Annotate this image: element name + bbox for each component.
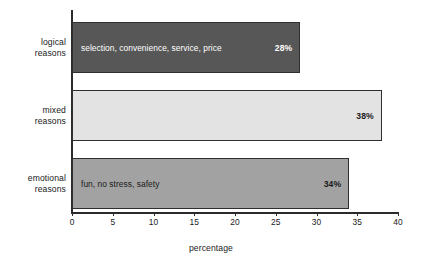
bar-description-2: fun, no stress, safety [81, 179, 159, 189]
category-label-mixed-reasons-line1: mixed [43, 105, 66, 115]
x-tick-mark-40 [398, 212, 399, 216]
category-label-logical-reasons: logical reasons [4, 37, 66, 58]
bar-value-1: 38% [356, 111, 373, 121]
x-tick-mark-10 [154, 212, 155, 216]
bar-emotional-reasons: fun, no stress, safety34% [72, 158, 349, 209]
x-tick-label-25: 25 [271, 217, 280, 227]
x-tick-label-30: 30 [312, 217, 321, 227]
x-tick-label-15: 15 [190, 217, 199, 227]
x-tick-label-10: 10 [149, 217, 158, 227]
category-label-logical-reasons-line2: reasons [4, 48, 66, 59]
bar-value-0: 28% [275, 43, 292, 53]
x-tick-mark-30 [317, 212, 318, 216]
bar-value-2: 34% [324, 179, 341, 189]
x-tick-label-35: 35 [353, 217, 362, 227]
category-label-mixed-reasons-line2: reasons [4, 116, 66, 127]
category-label-mixed-reasons: mixed reasons [4, 105, 66, 126]
category-label-emotional-reasons: emotional reasons [4, 173, 66, 194]
x-tick-mark-20 [235, 212, 236, 216]
x-tick-label-0: 0 [70, 217, 75, 227]
bar-description-0: selection, convenience, service, price [81, 43, 222, 53]
category-label-emotional-reasons-line2: reasons [4, 184, 66, 195]
x-tick-mark-5 [113, 212, 114, 216]
x-axis-title: percentage [0, 243, 422, 253]
category-label-logical-reasons-line1: logical [41, 37, 66, 47]
x-tick-mark-25 [276, 212, 277, 216]
x-tick-label-20: 20 [230, 217, 239, 227]
x-tick-mark-15 [194, 212, 195, 216]
x-tick-label-40: 40 [393, 217, 402, 227]
bar-chart-figure: logical reasons mixed reasons emotional … [0, 0, 422, 269]
x-tick-mark-0 [72, 212, 73, 216]
x-tick-label-5: 5 [110, 217, 115, 227]
bar-logical-reasons: selection, convenience, service, price28… [72, 22, 300, 73]
category-label-emotional-reasons-line1: emotional [28, 173, 66, 183]
x-tick-mark-35 [357, 212, 358, 216]
plot-area: selection, convenience, service, price28… [72, 10, 398, 212]
bar-mixed-reasons: 38% [72, 90, 382, 141]
